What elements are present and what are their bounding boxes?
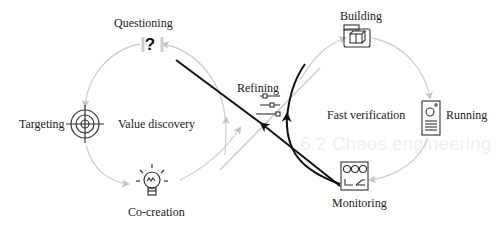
node-label-refining: Refining [237,81,279,95]
question-mark-icon: ? [143,35,162,54]
lightbulb-icon [136,164,168,195]
diagram-canvas: ? [0,0,502,225]
node-label-running: Running [446,108,487,122]
loop-label-value-discovery: Value discovery [118,117,195,131]
node-label-questioning: Questioning [114,16,173,30]
node-label-building: Building [340,9,382,23]
node-label-targeting: Targeting [19,117,65,131]
center-cross-gray [220,38,345,170]
feedback-arrows [176,60,340,186]
dashboard-icon [341,162,368,190]
box-folder-icon [344,25,370,47]
sliders-icon [256,94,280,116]
target-icon [66,105,104,143]
node-label-monitoring: Monitoring [332,196,387,210]
left-loop-arrows [85,44,240,184]
server-icon [422,101,440,135]
svg-text:?: ? [145,35,155,54]
node-label-co-creation: Co-creation [128,205,185,219]
loop-label-fast-verification: Fast verification [327,108,405,122]
